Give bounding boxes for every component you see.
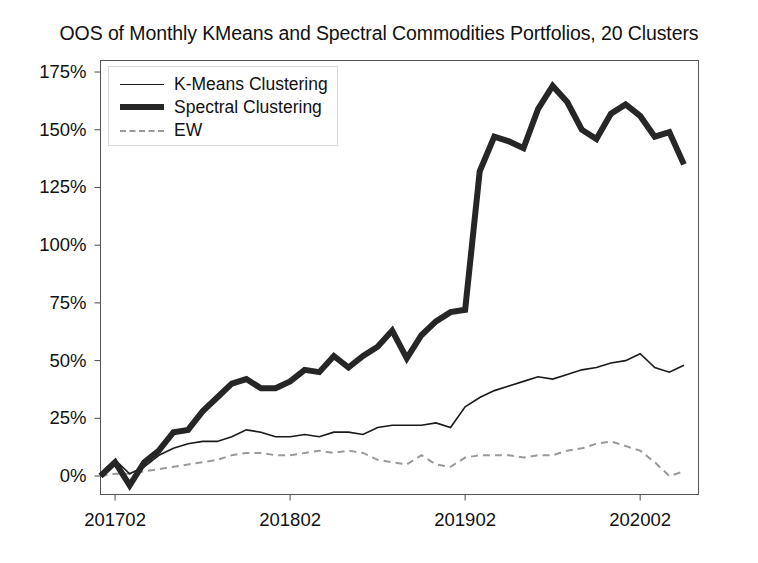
x-tick-marks (115, 495, 640, 501)
legend-item-kmeans: K-Means Clustering (120, 72, 328, 96)
y-tick-label: 175% (0, 61, 87, 83)
y-tick-label: 100% (0, 234, 87, 256)
y-tick-label: 25% (0, 407, 87, 429)
legend-item-spectral: Spectral Clustering (120, 95, 322, 119)
legend-item-ew: EW (120, 118, 202, 142)
series-line (101, 354, 684, 476)
x-tick-label: 201802 (259, 509, 321, 531)
x-tick-label: 202002 (609, 509, 671, 531)
x-tick-label: 201702 (84, 509, 146, 531)
legend-line-kmeans-icon (120, 77, 164, 91)
y-tick-label: 50% (0, 350, 87, 372)
legend-label-kmeans: K-Means Clustering (174, 74, 328, 95)
legend-label-spectral: Spectral Clustering (174, 97, 322, 118)
x-tick-label: 201902 (434, 509, 496, 531)
y-tick-label: 0% (0, 465, 87, 487)
series-line (101, 441, 684, 476)
legend-line-spectral-icon (120, 100, 164, 114)
y-tick-label: 125% (0, 176, 87, 198)
y-tick-label: 150% (0, 119, 87, 141)
chart-legend: K-Means Clustering Spectral Clustering E… (108, 66, 338, 146)
y-tick-label: 75% (0, 292, 87, 314)
legend-label-ew: EW (174, 120, 202, 141)
y-tick-marks (95, 72, 101, 476)
legend-line-ew-icon (120, 123, 164, 137)
chart-figure: OOS of Monthly KMeans and Spectral Commo… (0, 0, 758, 563)
